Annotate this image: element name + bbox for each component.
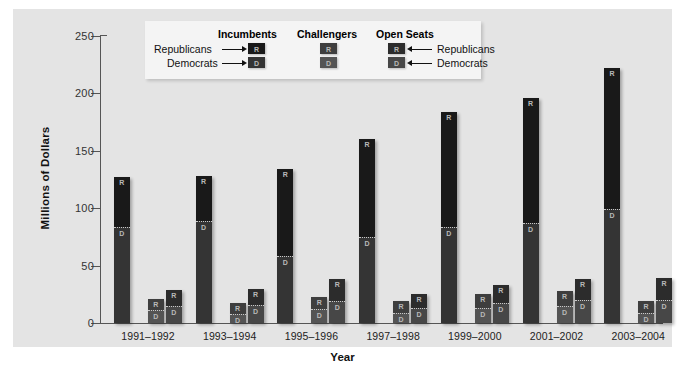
bar-segment-republican: R — [359, 139, 375, 237]
segment-letter-d: D — [398, 316, 403, 323]
y-tick-label: 200 — [75, 87, 94, 99]
segment-letter-d: D — [580, 303, 585, 310]
bar-challengers[interactable]: RD — [230, 303, 246, 323]
bar-open-seats[interactable]: RD — [248, 289, 264, 323]
x-tick-label: 2001–2002 — [530, 330, 583, 342]
bar-segment-democrat: D — [114, 227, 130, 323]
segment-letter-r: R — [610, 70, 615, 77]
segment-letter-r: R — [283, 171, 288, 178]
bar-open-seats[interactable]: RD — [411, 294, 427, 323]
bar-incumbents[interactable]: RD — [441, 112, 457, 323]
chart-figure: Millions of Dollars 050100150200250 RDRD… — [13, 9, 672, 347]
swatch-letter-r: R — [394, 45, 399, 52]
bar-segment-republican: R — [575, 279, 591, 300]
legend-swatch-open-democrat: D — [388, 57, 405, 68]
bar-segment-democrat: D — [523, 223, 539, 323]
segment-letter-r: R — [398, 303, 403, 310]
segment-letter-d: D — [119, 230, 124, 237]
bar-open-seats[interactable]: RD — [166, 290, 182, 323]
segment-letter-d: D — [153, 313, 158, 320]
bar-segment-republican: R — [557, 291, 573, 306]
y-axis-cap-bottom — [100, 323, 107, 324]
bar-group: RDRDRD — [523, 36, 605, 323]
bar-segment-democrat: D — [638, 313, 654, 323]
bar-segment-democrat: D — [148, 310, 164, 323]
legend-swatch-open-republican: R — [388, 43, 405, 54]
segment-letter-d: D — [253, 308, 258, 315]
bar-incumbents[interactable]: RD — [604, 68, 620, 323]
bar-open-seats[interactable]: RD — [493, 285, 509, 323]
bar-segment-democrat: D — [393, 313, 409, 323]
segment-letter-d: D — [283, 259, 288, 266]
bar-segment-democrat: D — [311, 309, 327, 323]
bar-challengers[interactable]: RD — [311, 297, 327, 323]
bar-segment-democrat: D — [359, 237, 375, 323]
bar-segment-democrat: D — [166, 306, 182, 323]
x-tick-label: 1999–2000 — [448, 330, 501, 342]
bar-segment-democrat: D — [329, 301, 345, 323]
bar-incumbents[interactable]: RD — [196, 176, 212, 323]
segment-letter-r: R — [335, 281, 340, 288]
bar-segment-democrat: D — [196, 221, 212, 323]
segment-letter-r: R — [253, 291, 258, 298]
bar-segment-democrat: D — [230, 314, 246, 323]
segment-letter-d: D — [528, 226, 533, 233]
segment-letter-d: D — [480, 311, 485, 318]
bar-segment-republican: R — [248, 289, 264, 305]
bar-segment-republican: R — [230, 303, 246, 313]
legend-heading-challengers: Challengers — [297, 28, 357, 40]
bar-open-seats[interactable]: RD — [329, 279, 345, 323]
bar-group: RDRDRD — [196, 36, 278, 323]
swatch-letter-r: R — [254, 45, 259, 52]
segment-letter-d: D — [235, 317, 240, 324]
bar-segment-republican: R — [441, 112, 457, 227]
bar-group: RDRDRD — [114, 36, 196, 323]
segment-letter-r: R — [235, 305, 240, 312]
bar-segment-republican: R — [493, 285, 509, 303]
x-axis-line — [100, 323, 663, 324]
segment-letter-r: R — [644, 303, 649, 310]
bar-segment-republican: R — [277, 169, 293, 256]
legend-label-democrats-left: Democrats — [167, 57, 218, 69]
legend-swatch-incumbent-democrat: D — [248, 57, 265, 68]
legend-label-republicans-right: Republicans — [437, 43, 495, 55]
segment-letter-r: R — [317, 299, 322, 306]
segment-letter-d: D — [364, 240, 369, 247]
bar-incumbents[interactable]: RD — [359, 139, 375, 323]
segment-letter-d: D — [317, 312, 322, 319]
legend-arrow-democrats-right — [412, 63, 432, 64]
x-tick-label: 1995–1996 — [285, 330, 338, 342]
bar-incumbents[interactable]: RD — [277, 169, 293, 323]
segment-letter-d: D — [335, 304, 340, 311]
bar-challengers[interactable]: RD — [393, 301, 409, 323]
bar-challengers[interactable]: RD — [638, 301, 654, 323]
segment-letter-r: R — [171, 292, 176, 299]
bar-open-seats[interactable]: RD — [656, 278, 672, 323]
y-tick-label: 250 — [75, 30, 94, 42]
chart-legend: Incumbents Challengers Open Seats Republ… — [145, 21, 481, 79]
legend-label-republicans-left: Republicans — [154, 43, 212, 55]
bar-segment-republican: R — [604, 68, 620, 209]
y-tick-label: 100 — [75, 202, 94, 214]
y-tick-label: 50 — [81, 260, 94, 272]
segment-letter-d: D — [446, 230, 451, 237]
segment-letter-r: R — [562, 293, 567, 300]
legend-arrow-democrats-left — [222, 63, 242, 64]
bar-challengers[interactable]: RD — [557, 291, 573, 323]
bar-incumbents[interactable]: RD — [523, 98, 539, 323]
bar-challengers[interactable]: RD — [475, 294, 491, 323]
bar-challengers[interactable]: RD — [148, 299, 164, 323]
x-tick-label: 1991–1992 — [121, 330, 174, 342]
bar-group: RDRDRD — [441, 36, 523, 323]
bar-segment-republican: R — [523, 98, 539, 223]
segment-letter-d: D — [662, 303, 667, 310]
bar-segment-democrat: D — [604, 209, 620, 323]
segment-letter-d: D — [416, 311, 421, 318]
legend-heading-open-seats: Open Seats — [376, 28, 434, 40]
bar-incumbents[interactable]: RD — [114, 177, 130, 323]
bar-open-seats[interactable]: RD — [575, 279, 591, 323]
bar-segment-democrat: D — [411, 308, 427, 323]
legend-arrow-republicans-left — [222, 49, 242, 50]
segment-letter-d: D — [498, 306, 503, 313]
segment-letter-r: R — [662, 280, 667, 287]
